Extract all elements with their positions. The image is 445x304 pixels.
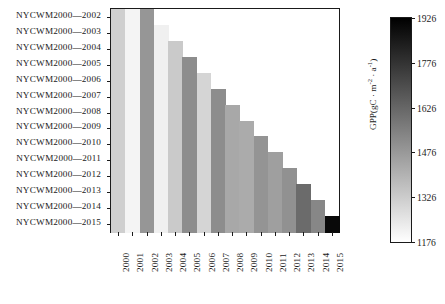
y-axis-tick	[107, 97, 111, 98]
heatmap-cell	[197, 200, 212, 217]
chart-figure: NYCWM2000—2002NYCWM2000—2003NYCWM2000—20…	[0, 0, 445, 304]
heatmap-cell	[154, 73, 169, 90]
x-axis-tick	[318, 232, 319, 236]
y-axis-label: NYCWM2000—2010	[0, 135, 105, 151]
heatmap-cell	[239, 184, 254, 201]
heatmap-cell	[254, 152, 269, 169]
y-axis-label: NYCWM2000—2012	[0, 167, 105, 183]
colorbar: 117613261476162617761926	[390, 17, 412, 243]
x-axis-tick	[232, 232, 233, 236]
heatmap-cell	[111, 25, 126, 42]
heatmap-cell	[268, 216, 283, 233]
heatmap-cell	[111, 152, 126, 169]
colorbar-tick-label: 1176	[417, 237, 436, 248]
y-axis-label: NYCWM2000—2008	[0, 104, 105, 120]
x-axis-tick	[246, 232, 247, 236]
heatmap-cell	[125, 200, 140, 217]
heatmap-cell	[154, 184, 169, 201]
x-axis-label: 2012	[292, 253, 302, 272]
heatmap-cell	[154, 200, 169, 217]
heatmap-cell	[211, 168, 226, 185]
heatmap-cell	[140, 41, 155, 58]
heatmap-cell	[311, 200, 326, 217]
colorbar-tick	[411, 152, 415, 153]
heatmap-cell	[154, 152, 169, 169]
colorbar-gradient	[391, 18, 411, 242]
heatmap-cell	[182, 105, 197, 122]
y-axis-tick	[107, 33, 111, 34]
heatmap-cell	[111, 136, 126, 153]
x-axis-label: 2004	[178, 253, 188, 272]
x-axis-tick	[261, 232, 262, 236]
heatmap-cell	[197, 184, 212, 201]
heatmap-cell	[154, 136, 169, 153]
heatmap-cell	[154, 41, 169, 58]
heatmap-cell	[168, 216, 183, 233]
y-axis-label: NYCWM2000—2009	[0, 119, 105, 135]
x-axis-label: 2013	[306, 253, 316, 272]
heatmap-cell	[140, 25, 155, 42]
heatmap-cell	[111, 121, 126, 138]
heatmap-cell	[111, 168, 126, 185]
heatmap-cell	[197, 73, 212, 90]
heatmap-cell	[282, 168, 297, 185]
x-axis-label: 2001	[135, 253, 145, 272]
y-axis-label: NYCWM2000—2005	[0, 56, 105, 72]
heatmap-cell	[182, 216, 197, 233]
heatmap-cell	[197, 105, 212, 122]
heatmap-cell	[140, 168, 155, 185]
x-axis-labels: 2000200120022003200420052006200720082009…	[110, 238, 340, 298]
heatmap-cells	[111, 9, 339, 232]
heatmap-cell	[140, 9, 155, 26]
y-axis-tick	[107, 192, 111, 193]
heatmap-cell	[168, 152, 183, 169]
x-axis-label: 2006	[207, 253, 217, 272]
x-axis-label: 2003	[164, 253, 174, 272]
y-axis-tick	[107, 176, 111, 177]
heatmap-cell	[225, 121, 240, 138]
y-axis-label: NYCWM2000—2006	[0, 72, 105, 88]
y-axis-tick	[107, 17, 111, 18]
heatmap-cell	[268, 152, 283, 169]
heatmap-cell	[268, 184, 283, 201]
y-axis-tick	[107, 81, 111, 82]
heatmap-cell	[111, 89, 126, 106]
heatmap-cell	[211, 152, 226, 169]
heatmap-cell	[225, 152, 240, 169]
heatmap-cell	[140, 184, 155, 201]
heatmap-cell	[197, 216, 212, 233]
heatmap-cell	[211, 136, 226, 153]
heatmap-cell	[154, 25, 169, 42]
x-axis-label: 2005	[192, 253, 202, 272]
y-axis-tick	[107, 208, 111, 209]
heatmap-cell	[325, 216, 340, 233]
heatmap-cell	[197, 136, 212, 153]
heatmap-cell	[154, 216, 169, 233]
heatmap-cell	[211, 200, 226, 217]
heatmap-cell	[125, 136, 140, 153]
heatmap-cell	[154, 105, 169, 122]
heatmap-cell	[239, 121, 254, 138]
heatmap-plot-area	[110, 8, 340, 233]
x-axis-tick	[132, 232, 133, 236]
heatmap-cell	[182, 73, 197, 90]
heatmap-cell	[268, 200, 283, 217]
heatmap-cell	[111, 200, 126, 217]
heatmap-cell	[125, 73, 140, 90]
x-axis-label: 2015	[335, 253, 345, 272]
heatmap-cell	[154, 89, 169, 106]
x-axis-label: 2011	[278, 253, 288, 272]
heatmap-cell	[140, 57, 155, 74]
y-axis-labels: NYCWM2000—2002NYCWM2000—2003NYCWM2000—20…	[0, 8, 105, 231]
heatmap-cell	[168, 121, 183, 138]
heatmap-cell	[254, 136, 269, 153]
heatmap-cell	[140, 216, 155, 233]
heatmap-cell	[254, 216, 269, 233]
heatmap-cell	[211, 105, 226, 122]
heatmap-cell	[211, 121, 226, 138]
x-axis-label: 2007	[221, 253, 231, 272]
x-axis-tick	[218, 232, 219, 236]
y-axis-label: NYCWM2000—2011	[0, 151, 105, 167]
heatmap-cell	[111, 9, 126, 26]
heatmap-cell	[168, 200, 183, 217]
